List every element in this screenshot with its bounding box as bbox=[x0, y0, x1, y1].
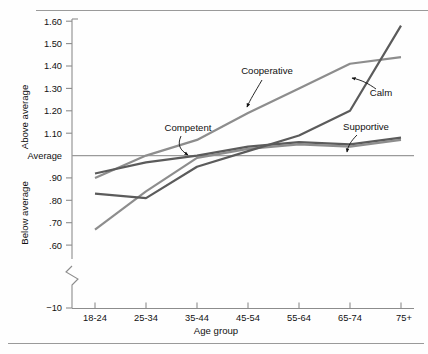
y-axis bbox=[66, 19, 78, 308]
x-tick-label: 45-54 bbox=[236, 313, 260, 323]
y-tick-label: 1.10 bbox=[44, 129, 62, 139]
x-tick-label: 75+ bbox=[396, 313, 412, 323]
chart-figure: 1.60 1.50 1.40 1.30 1.20 1.10 Average .9… bbox=[0, 0, 428, 354]
y-tick-label-average: Average bbox=[28, 151, 62, 161]
y-tick-label: .70 bbox=[49, 218, 62, 228]
y-axis-upper-region-label: Above average bbox=[19, 85, 30, 150]
annotation-cooperative: Cooperative bbox=[241, 65, 293, 76]
annotation-supportive: Supportive bbox=[343, 121, 389, 132]
x-tick-label: 65-74 bbox=[338, 313, 362, 323]
y-tick-label: .60 bbox=[49, 241, 62, 251]
x-axis bbox=[72, 303, 414, 309]
y-tick-label: 1.40 bbox=[44, 61, 62, 71]
x-tick-label: 18-24 bbox=[83, 313, 107, 323]
y-tick-label: 1.20 bbox=[44, 106, 62, 116]
y-tick-label: 1.60 bbox=[44, 17, 62, 27]
y-tick-label: .90 bbox=[49, 173, 62, 183]
annotation-competent: Competent bbox=[165, 122, 212, 133]
x-axis-title: Age group bbox=[194, 325, 238, 336]
annotation-calm: Calm bbox=[370, 87, 392, 98]
y-tick-label: .80 bbox=[49, 196, 62, 206]
y-axis-origin-label: −10 bbox=[46, 303, 62, 313]
y-axis-lower-region-label: Below average bbox=[19, 181, 30, 244]
line-chart-svg: 1.60 1.50 1.40 1.30 1.20 1.10 Average .9… bbox=[0, 0, 428, 354]
y-tick-label: 1.30 bbox=[44, 84, 62, 94]
y-tick-label: 1.50 bbox=[44, 39, 62, 49]
x-tick-labels: 18-24 25-34 35-44 45-54 55-64 65-74 75+ bbox=[83, 313, 412, 323]
x-tick-label: 25-34 bbox=[134, 313, 158, 323]
series-line-competent bbox=[95, 140, 401, 230]
x-tick-label: 55-64 bbox=[287, 313, 311, 323]
y-tick-labels: 1.60 1.50 1.40 1.30 1.20 1.10 Average .9… bbox=[28, 17, 62, 314]
cooperative-leader-arrow bbox=[247, 80, 262, 107]
x-tick-label: 35-44 bbox=[185, 313, 209, 323]
